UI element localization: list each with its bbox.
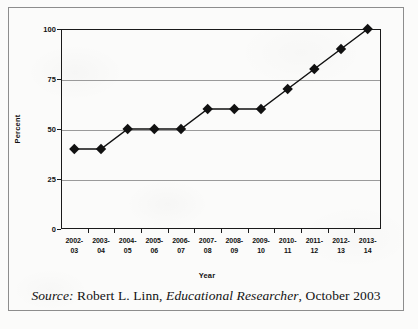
x-label-line2: 12 [310,247,318,254]
x-tick-mark-5 [194,229,195,233]
x-label-line1: 2013- [359,237,377,244]
x-tick-mark-9 [301,229,302,233]
x-label-line2: 03 [70,247,78,254]
x-label-line2: 13 [337,247,345,254]
x-tick-mark-11 [354,229,355,233]
y-tick-mark-0 [57,229,61,230]
figure-border: Percent 0255075100 2002-032003-042004-05… [8,7,404,311]
x-tick-mark-2 [114,229,115,233]
caption-publication: Educational Researcher [166,288,299,303]
line-chart: Percent 0255075100 2002-032003-042004-05… [9,8,405,280]
scanned-page: Percent 0255075100 2002-032003-042004-05… [0,0,418,329]
x-tick-mark-4 [168,229,169,233]
data-point-2008-09 [229,104,239,114]
x-label-line2: 08 [204,247,212,254]
x-label-line2: 14 [364,247,372,254]
x-axis-label-11: 2013-14 [348,236,388,255]
x-tick-mark-10 [328,229,329,233]
x-label-line2: 04 [97,247,105,254]
x-tick-mark-1 [88,229,89,233]
y-tick-label-0: 0 [10,225,56,234]
y-tick-label-25: 25 [10,175,56,184]
x-tick-mark-8 [274,229,275,233]
y-tick-label-50: 50 [10,125,56,134]
caption-source-label: Source: [31,288,73,303]
x-axis-title: Year [9,271,405,280]
figure-caption: Source: Robert L. Linn, Educational Rese… [9,288,403,304]
y-tick-label-100: 100 [10,25,56,34]
x-label-line2: 11 [284,247,291,254]
data-series [61,29,381,229]
series-line [74,29,367,149]
caption-date: , October 2003 [299,288,381,303]
caption-author: Robert L. Linn, [74,288,166,303]
x-label-line2: 06 [150,247,158,254]
x-tick-mark-6 [221,229,222,233]
y-tick-label-75: 75 [10,75,56,84]
x-tick-mark-3 [141,229,142,233]
x-label-line2: 09 [230,247,238,254]
data-point-2002-03 [69,144,79,154]
x-label-line2: 07 [177,247,185,254]
x-label-line2: 05 [124,247,132,254]
x-label-line2: 10 [257,247,265,254]
data-point-2005-06 [149,124,159,134]
x-tick-mark-7 [248,229,249,233]
